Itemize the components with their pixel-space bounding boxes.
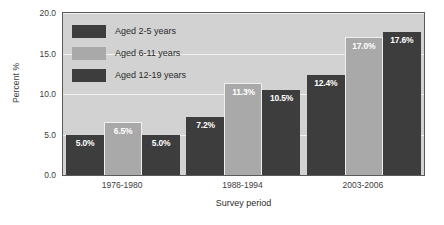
bar[interactable]: 6.5% — [104, 122, 142, 175]
y-axis-tick-label: 5.0 — [18, 130, 56, 140]
x-axis-tick-label: 2003-2006 — [343, 180, 384, 190]
x-axis-title: Survey period — [62, 198, 425, 208]
bar-value-label: 6.5% — [105, 126, 141, 136]
bar[interactable]: 5.0% — [66, 135, 104, 176]
bar-value-label: 5.0% — [142, 138, 180, 148]
y-axis-tick-label: 10.0 — [18, 89, 56, 99]
bar[interactable]: 17.0% — [345, 37, 383, 175]
bar-value-label: 5.0% — [66, 138, 104, 148]
legend-item[interactable]: Aged 6-11 years — [72, 44, 186, 62]
bar-value-label: 17.6% — [383, 35, 421, 45]
legend-item-label: Aged 6-11 years — [115, 48, 180, 58]
bar[interactable]: 5.0% — [142, 135, 180, 176]
legend-item-label: Aged 12-19 years — [115, 70, 186, 80]
legend-swatch-icon — [72, 25, 106, 38]
bar-value-label: 12.4% — [307, 78, 345, 88]
bar-group: 7.2%11.3%10.5% — [183, 13, 303, 175]
bar[interactable]: 17.6% — [383, 32, 421, 175]
y-axis-tick-labels: 0.05.010.015.020.0 — [18, 12, 56, 176]
legend: Aged 2-5 yearsAged 6-11 yearsAged 12-19 … — [72, 20, 186, 90]
bar-value-label: 7.2% — [186, 120, 224, 130]
bar-value-label: 10.5% — [262, 93, 300, 103]
bar-group: 12.4%17.0%17.6% — [304, 13, 424, 175]
bar-chart-figure: Percent % 0.05.010.015.020.0 5.0%6.5%5.0… — [0, 0, 444, 225]
bar-value-label: 11.3% — [225, 87, 261, 97]
plot-area: 5.0%6.5%5.0%7.2%11.3%10.5%12.4%17.0%17.6… — [62, 12, 425, 176]
bar[interactable]: 10.5% — [262, 90, 300, 175]
bar[interactable]: 11.3% — [224, 83, 262, 175]
legend-item[interactable]: Aged 12-19 years — [72, 66, 186, 84]
y-axis-tick-label: 15.0 — [18, 49, 56, 59]
x-axis-tick-labels: 1976-19801988-19942003-2006 — [62, 180, 425, 194]
bar[interactable]: 7.2% — [186, 117, 224, 175]
legend-item-label: Aged 2-5 years — [115, 26, 176, 36]
legend-swatch-icon — [72, 69, 106, 82]
y-axis-tick-label: 0.0 — [18, 170, 56, 180]
y-axis-tick-label: 20.0 — [18, 8, 56, 18]
x-axis-tick-label: 1976-1980 — [102, 180, 143, 190]
legend-swatch-icon — [72, 47, 106, 60]
bar[interactable]: 12.4% — [307, 75, 345, 175]
bar-value-label: 17.0% — [346, 41, 382, 51]
x-axis-tick-label: 1988-1994 — [222, 180, 263, 190]
legend-item[interactable]: Aged 2-5 years — [72, 22, 186, 40]
